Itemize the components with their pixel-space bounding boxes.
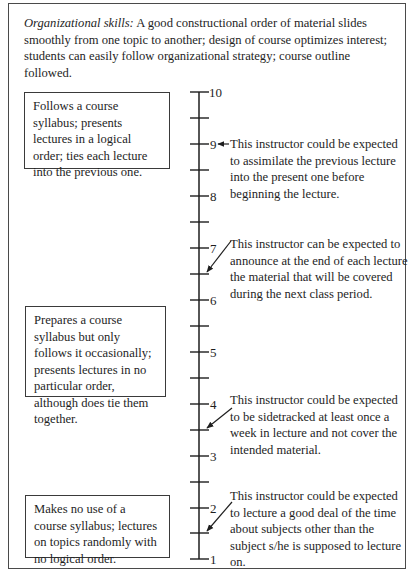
tick-label-7: 7	[210, 241, 217, 256]
tick-label-8: 8	[210, 189, 217, 204]
behavior-example-3-5-text: This instructor could be expected to be …	[230, 393, 398, 457]
tick-label-2: 2	[210, 501, 217, 516]
behavior-example-6-5-text: This instructor can be expected to annou…	[230, 237, 408, 301]
tick-label-10: 10	[209, 85, 222, 100]
behavior-example-9: This instructor could be expected to ass…	[230, 136, 408, 202]
tick-label-9: 9	[210, 137, 217, 152]
tick-label-3: 3	[210, 449, 217, 464]
tick-label-4: 4	[210, 397, 217, 412]
tick-label-1: 1	[210, 552, 217, 567]
behavior-example-3-5: This instructor could be expected to be …	[230, 392, 408, 458]
tick-label-6: 6	[210, 293, 217, 308]
tick-label-5: 5	[210, 345, 217, 360]
behavior-example-6-5: This instructor can be expected to annou…	[230, 236, 408, 302]
behavior-example-1-5-text: This instructor could be expected to lec…	[230, 489, 401, 569]
behavior-example-1-5: This instructor could be expected to lec…	[230, 488, 408, 571]
behavior-example-9-text: This instructor could be expected to ass…	[230, 137, 398, 201]
